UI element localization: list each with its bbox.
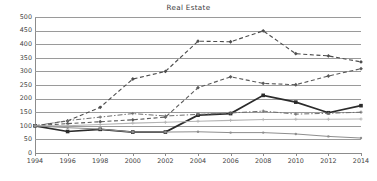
- x-tick-mark: [35, 153, 36, 156]
- data-point-marker: [66, 130, 70, 134]
- data-point-marker: [229, 119, 232, 122]
- data-point-marker: [99, 115, 102, 118]
- data-point-marker: [197, 131, 199, 133]
- data-point-marker: [131, 118, 135, 122]
- data-point-marker: [294, 113, 297, 116]
- y-tick-label: 400: [4, 41, 32, 47]
- x-tick-mark: [198, 153, 199, 156]
- data-point-marker: [262, 110, 265, 113]
- x-tick-mark: [68, 153, 69, 156]
- x-tick-mark: [296, 153, 297, 156]
- data-point-marker: [359, 111, 362, 114]
- data-point-marker: [229, 131, 231, 133]
- x-axis-labels: 1994199619982000200220042006200820102012…: [35, 157, 361, 171]
- data-point-marker: [98, 105, 102, 109]
- x-tick-mark: [361, 153, 362, 156]
- y-tick-label: 0: [4, 150, 32, 156]
- data-point-marker: [359, 60, 363, 64]
- data-point-marker: [295, 133, 297, 135]
- data-point-marker: [131, 112, 134, 115]
- x-tick-label: 1996: [59, 157, 75, 165]
- data-point-marker: [132, 131, 134, 133]
- y-tick-label: 50: [4, 136, 32, 142]
- x-tick-mark: [100, 153, 101, 156]
- y-tick-label: 350: [4, 55, 32, 61]
- data-point-marker: [327, 74, 331, 78]
- y-tick-label: 300: [4, 68, 32, 74]
- x-tick-label: 1994: [27, 157, 43, 165]
- series-series-2: [33, 67, 363, 128]
- data-point-marker: [164, 131, 166, 133]
- data-point-marker: [66, 127, 68, 129]
- data-point-marker: [359, 104, 363, 108]
- x-tick-label: 2002: [157, 157, 173, 165]
- data-point-marker: [294, 83, 298, 87]
- data-point-marker: [66, 119, 69, 122]
- data-point-marker: [327, 118, 330, 121]
- data-point-marker: [99, 123, 102, 126]
- data-point-marker: [99, 128, 101, 130]
- y-tick-label: 150: [4, 109, 32, 115]
- x-tick-label: 2012: [320, 157, 336, 165]
- data-point-marker: [327, 135, 329, 137]
- y-tick-label: 100: [4, 123, 32, 129]
- data-point-marker: [360, 137, 362, 139]
- series-line: [35, 69, 361, 126]
- data-point-marker: [359, 67, 363, 71]
- x-tick-mark: [231, 153, 232, 156]
- data-point-marker: [196, 120, 199, 123]
- x-tick-label: 2004: [190, 157, 206, 165]
- y-tick-label: 200: [4, 95, 32, 101]
- data-point-marker: [359, 117, 362, 120]
- series-line: [35, 31, 361, 126]
- y-tick-label: 450: [4, 27, 32, 33]
- data-point-marker: [261, 81, 265, 85]
- data-point-marker: [164, 121, 167, 124]
- x-tick-label: 2000: [125, 157, 141, 165]
- y-axis-labels: 050100150200250300350400450500: [1, 0, 32, 181]
- data-point-marker: [131, 121, 134, 124]
- x-tick-label: 2008: [255, 157, 271, 165]
- chart-title: Real Estate: [0, 3, 377, 12]
- plot-area: [35, 17, 361, 153]
- y-tick-label: 250: [4, 82, 32, 88]
- y-tick-label: 500: [4, 14, 32, 20]
- x-tick-mark: [165, 153, 166, 156]
- data-point-marker: [229, 40, 233, 44]
- series-layer: [35, 17, 361, 153]
- x-tick-label: 2014: [353, 157, 369, 165]
- x-tick-label: 2010: [288, 157, 304, 165]
- series-series-6: [34, 125, 362, 140]
- data-point-marker: [34, 125, 36, 127]
- data-point-marker: [262, 131, 264, 133]
- x-tick-mark: [263, 153, 264, 156]
- x-tick-label: 2006: [222, 157, 238, 165]
- chart-container: Real Estate 0501001502002503003504004505…: [0, 0, 377, 181]
- data-point-marker: [229, 75, 233, 79]
- data-point-marker: [327, 54, 331, 58]
- x-tick-label: 1998: [92, 157, 108, 165]
- data-point-marker: [294, 100, 298, 104]
- data-point-marker: [261, 94, 265, 98]
- x-tick-mark: [133, 153, 134, 156]
- data-point-marker: [262, 118, 265, 121]
- x-tick-mark: [328, 153, 329, 156]
- data-point-marker: [294, 118, 297, 121]
